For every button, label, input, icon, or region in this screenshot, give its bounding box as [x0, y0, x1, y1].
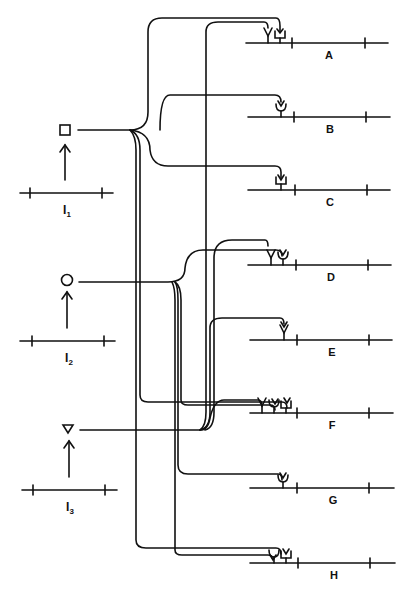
square-symbol-icon: [60, 125, 70, 135]
receptors-B: [276, 101, 286, 117]
triangle-receptor-icon: [264, 28, 272, 36]
target-label-F: F: [329, 419, 336, 431]
input-I1: [20, 125, 113, 198]
receptors-D: [267, 250, 288, 265]
triangle-receptor-icon: [267, 250, 275, 258]
input-label-I1: I1: [63, 203, 71, 219]
target-label-E: E: [328, 346, 335, 358]
target-label-B: B: [326, 123, 334, 135]
target-label-C: C: [326, 196, 334, 208]
input-label-I2: I2: [65, 351, 73, 367]
circle-symbol-icon: [62, 275, 73, 286]
input-label-I3: I3: [66, 500, 74, 516]
triangle-symbol-icon: [63, 425, 73, 433]
receptors-G: [278, 473, 288, 488]
target-label-A: A: [325, 49, 333, 61]
target-label-G: G: [329, 494, 338, 506]
input-I3: [22, 425, 117, 495]
triangle-projections: [80, 22, 284, 430]
target-lines: [246, 38, 395, 568]
target-label-H: H: [330, 569, 338, 581]
receptors-A: [264, 28, 285, 43]
input-I2: [20, 275, 115, 347]
target-label-D: D: [327, 271, 335, 283]
projection-diagram: [0, 0, 409, 592]
